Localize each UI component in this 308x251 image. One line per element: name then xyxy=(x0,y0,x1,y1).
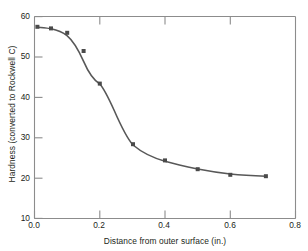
x-tick-label: 0.2 xyxy=(79,221,119,229)
data-point xyxy=(35,25,39,29)
y-tick-label: 30 xyxy=(8,133,30,141)
data-point xyxy=(98,82,102,86)
y-axis-ticks xyxy=(35,17,43,219)
y-tick-label: 20 xyxy=(8,174,30,182)
y-tick-label: 40 xyxy=(8,93,30,101)
data-point xyxy=(49,26,53,30)
x-tick-label: 0.8 xyxy=(275,221,308,229)
x-tick-label: 0.0 xyxy=(14,221,54,229)
data-point xyxy=(228,173,232,177)
plot-area xyxy=(0,0,308,251)
x-tick-label: 0.6 xyxy=(210,221,250,229)
data-point xyxy=(131,142,135,146)
data-point xyxy=(82,49,86,53)
y-tick-label: 60 xyxy=(8,12,30,20)
data-point xyxy=(65,31,69,35)
x-axis-tick-labels: 0.0 0.2 0.4 0.6 0.8 xyxy=(0,221,308,235)
chart-figure: Hardness (converted to Rockwell C) Dista… xyxy=(0,0,308,251)
y-tick-label: 50 xyxy=(8,52,30,60)
data-point xyxy=(196,167,200,171)
axis-frame xyxy=(35,17,296,219)
data-points xyxy=(35,25,268,178)
data-point xyxy=(163,158,167,162)
x-axis-ticks xyxy=(35,211,296,219)
y-axis-tick-labels: 60 50 40 30 20 10 xyxy=(0,0,30,251)
data-point xyxy=(264,174,268,178)
x-axis-title: Distance from outer surface (in.) xyxy=(34,236,296,246)
top-axis-ticks xyxy=(100,17,231,25)
x-tick-label: 0.4 xyxy=(144,221,184,229)
data-curve xyxy=(38,27,266,176)
